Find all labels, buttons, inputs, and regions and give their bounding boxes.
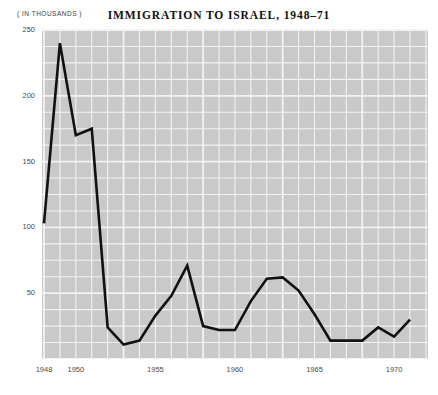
x-tick-1965: 1965	[295, 365, 335, 374]
immigration-line-series	[42, 29, 428, 359]
y-tick-100: 100	[5, 222, 35, 231]
x-tick-1960: 1960	[215, 365, 255, 374]
immigration-chart-figure: ( IN THOUSANDS ) IMMIGRATION TO ISRAEL, …	[0, 0, 438, 395]
y-tick-150: 150	[5, 157, 35, 166]
y-tick-50: 50	[5, 288, 35, 297]
chart-title: IMMIGRATION TO ISRAEL, 1948–71	[0, 9, 438, 21]
y-tick-200: 200	[5, 91, 35, 100]
y-tick-250: 250	[5, 25, 35, 34]
x-tick-1950: 1950	[56, 365, 96, 374]
x-tick-1955: 1955	[135, 365, 175, 374]
x-tick-1970: 1970	[374, 365, 414, 374]
plot-area	[42, 29, 428, 359]
